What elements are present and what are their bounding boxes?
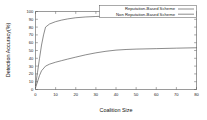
chart-figure: 0102030405060708090100 01020304050607080… bbox=[0, 0, 207, 120]
y-tick-label: 60 bbox=[29, 40, 34, 45]
y-tick-label: 90 bbox=[29, 17, 34, 22]
x-tick-label: 40 bbox=[114, 92, 119, 97]
y-axis-title: Detection Accuracy(%) bbox=[5, 23, 11, 78]
x-tick-label: 70 bbox=[174, 92, 179, 97]
x-tick-label: 60 bbox=[154, 92, 159, 97]
y-tick-label: 20 bbox=[29, 71, 34, 76]
x-tick-label: 10 bbox=[53, 92, 58, 97]
x-tick-label: 50 bbox=[134, 92, 139, 97]
y-tick-label: 10 bbox=[29, 79, 34, 84]
line-chart-plot: 0102030405060708090100 01020304050607080… bbox=[0, 0, 207, 120]
legend-label-1: Non Reputation-Based Scheme bbox=[116, 12, 176, 17]
y-tick-label: 50 bbox=[29, 48, 34, 53]
x-tick-label: 30 bbox=[94, 92, 99, 97]
x-tick-label: 20 bbox=[73, 92, 78, 97]
y-tick-label: 80 bbox=[29, 25, 34, 30]
x-tick-label: 80 bbox=[194, 92, 199, 97]
y-tick-label: 40 bbox=[29, 56, 34, 61]
y-tick-label: 70 bbox=[29, 32, 34, 37]
y-tick-label: 100 bbox=[26, 9, 34, 14]
y-tick-label: 30 bbox=[29, 64, 34, 69]
chart-legend: Reputation-Based Scheme Non Reputation-B… bbox=[100, 6, 197, 18]
x-axis-title: Coalition Size bbox=[100, 107, 133, 113]
